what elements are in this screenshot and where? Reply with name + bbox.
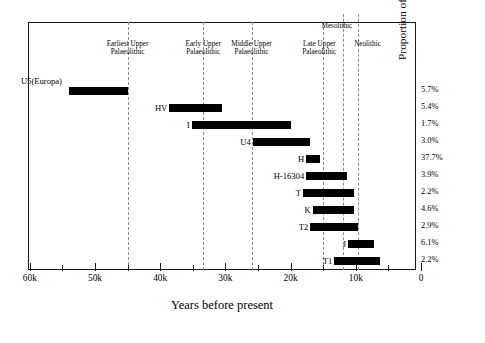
- bar-row: H: [0, 154, 485, 165]
- x-tick-minor: [323, 265, 324, 271]
- x-tick-minor: [62, 265, 63, 271]
- era-label-line2: Palaeolithic: [89, 48, 167, 56]
- bar-j: [348, 240, 374, 248]
- bar-label-k: K: [221, 205, 311, 215]
- bar-label-t: T: [211, 188, 301, 198]
- era-label-middle-upper-palaeolithic: Middle UpperPalaeolithic: [213, 40, 291, 57]
- x-tick-label: 50k: [75, 273, 115, 284]
- bar-row: T1: [0, 256, 485, 267]
- bar-t2: [310, 223, 358, 231]
- x-tick-label: 0: [401, 273, 441, 284]
- era-label-mesolithic: Mesolithic: [298, 22, 376, 30]
- bar-u4: [253, 138, 310, 146]
- x-tick-label: 20k: [271, 273, 311, 284]
- era-label-line1: Middle Upper: [213, 40, 291, 48]
- x-tick-minor: [258, 265, 259, 271]
- x-tick-major: [30, 263, 31, 271]
- bar-row: K: [0, 205, 485, 216]
- x-axis-title: Years before present: [28, 298, 416, 313]
- percent-value: 37.7%: [421, 153, 455, 163]
- bar-t: [303, 189, 354, 197]
- percent-value: 2.2%: [421, 187, 455, 197]
- bar-h-16304: [306, 172, 347, 180]
- bar-k: [313, 206, 354, 214]
- bar-label-u5-europa-: U5(Europa): [21, 76, 62, 86]
- x-tick-major: [291, 263, 292, 271]
- bar-row: J: [0, 239, 485, 250]
- bar-label-hv: HV: [77, 103, 167, 113]
- x-tick-label: 10k: [336, 273, 376, 284]
- bar-row: HV: [0, 103, 485, 114]
- era-label-earliest-upper-palaeolithic: Earliest UpperPalaeolithic: [89, 40, 167, 57]
- percent-value: 1.7%: [421, 119, 455, 129]
- x-tick-label: 60k: [10, 273, 50, 284]
- bar-label-h-16304: H-16304: [214, 171, 304, 181]
- x-tick-minor: [128, 265, 129, 271]
- x-tick-label: 30k: [205, 273, 245, 284]
- bar-label-i: I: [100, 120, 190, 130]
- bar-label-t2: T2: [218, 222, 308, 232]
- bar-t1: [334, 257, 380, 265]
- bar-i: [192, 121, 292, 129]
- era-label-line2: Palaeolithic: [213, 48, 291, 56]
- bar-row: I: [0, 120, 485, 131]
- percent-value: 6.1%: [421, 238, 455, 248]
- bar-row: T2: [0, 222, 485, 233]
- percent-value: 3.0%: [421, 136, 455, 146]
- x-tick-minor: [388, 265, 389, 271]
- bar-row: H-16304: [0, 171, 485, 182]
- bar-row: U4: [0, 137, 485, 148]
- bar-label-t1: T1: [242, 256, 332, 266]
- bar-label-h: H: [214, 154, 304, 164]
- x-tick-label: 40k: [140, 273, 180, 284]
- percent-value: 4.6%: [421, 204, 455, 214]
- percent-value: 5.4%: [421, 102, 455, 112]
- era-label-line1: Neolithic: [329, 40, 407, 48]
- percent-value: 5.7%: [421, 85, 455, 95]
- chart-canvas: Earliest UpperPalaeolithicEarly UpperPal…: [0, 0, 485, 343]
- x-tick-major: [356, 263, 357, 271]
- era-label-neolithic: Neolithic: [329, 40, 407, 48]
- bar-label-j: J: [256, 239, 346, 249]
- bar-row: T: [0, 188, 485, 199]
- y-axis-title: Proportion of European lineages today: [396, 0, 408, 60]
- era-label-line2: Palaeolithic: [280, 48, 358, 56]
- x-tick-major: [160, 263, 161, 271]
- x-tick-major: [95, 263, 96, 271]
- percent-value: 2.9%: [421, 221, 455, 231]
- era-label-line1: Mesolithic: [298, 22, 376, 30]
- bar-row: U5(Europa): [0, 86, 485, 97]
- x-tick-major: [421, 263, 422, 271]
- bar-h: [306, 155, 320, 163]
- percent-value: 2.2%: [421, 255, 455, 265]
- percent-value: 3.9%: [421, 170, 455, 180]
- bar-hv: [169, 104, 222, 112]
- bar-u5-europa-: [69, 87, 128, 95]
- x-tick-major: [225, 263, 226, 271]
- bar-label-u4: U4: [161, 137, 251, 147]
- era-label-line1: Earliest Upper: [89, 40, 167, 48]
- x-tick-minor: [193, 265, 194, 271]
